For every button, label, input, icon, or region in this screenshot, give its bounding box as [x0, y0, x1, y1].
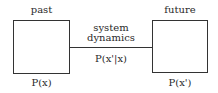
transition-formula: P(x'|x)	[70, 53, 152, 64]
future-box	[152, 20, 208, 73]
system-dynamics-connector	[70, 47, 152, 48]
past-title: past	[13, 4, 70, 15]
connector-label-line2: dynamics	[70, 32, 152, 43]
future-title: future	[152, 4, 208, 15]
past-box	[13, 20, 70, 74]
past-caption: P(x)	[13, 77, 70, 88]
future-caption: P(x')	[152, 77, 208, 88]
